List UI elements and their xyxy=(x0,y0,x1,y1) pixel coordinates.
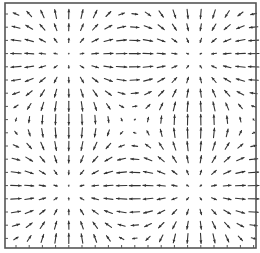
vector-arrow xyxy=(27,11,32,16)
vector-arrow xyxy=(133,237,138,240)
vector-arrow xyxy=(13,92,20,95)
vector-arrow xyxy=(13,13,19,16)
vector-arrow xyxy=(145,12,150,16)
vector-arrow xyxy=(200,128,203,139)
vector-arrow xyxy=(147,131,150,135)
vector-arrow xyxy=(54,10,57,19)
vector-arrow xyxy=(157,52,165,55)
vector-arrow xyxy=(39,171,45,175)
vector-arrow xyxy=(173,234,176,243)
vector-arrow xyxy=(119,145,124,148)
vector-arrow xyxy=(225,11,229,18)
vector-arrow xyxy=(26,223,32,228)
vector-arrow xyxy=(93,90,97,96)
vector-arrow xyxy=(134,131,136,134)
vector-arrow xyxy=(173,10,176,18)
vector-arrow xyxy=(67,170,70,174)
vector-arrow xyxy=(200,141,203,150)
vector-arrow xyxy=(145,92,152,95)
vector-arrow xyxy=(104,197,113,200)
vector-arrow xyxy=(143,65,153,68)
vector-arrow xyxy=(248,198,259,201)
vector-arrow xyxy=(186,128,189,139)
vector-arrow xyxy=(172,52,177,55)
vector-arrow xyxy=(212,39,217,43)
vector-arrow xyxy=(132,145,138,148)
vector-arrow xyxy=(225,90,230,96)
vector-arrow xyxy=(212,184,217,187)
vector-arrow xyxy=(133,105,137,108)
vector-arrow xyxy=(212,222,215,229)
vector-arrow xyxy=(92,39,98,42)
vector-arrow xyxy=(187,66,189,68)
vector-arrow xyxy=(186,24,189,31)
vector-arrow xyxy=(104,171,112,174)
vector-arrow xyxy=(67,127,70,138)
vector-arrow xyxy=(105,157,112,161)
vector-arrow xyxy=(106,12,111,17)
vector-arrow xyxy=(54,114,57,124)
vector-arrow xyxy=(93,222,98,228)
vector-arrow xyxy=(200,221,203,229)
vector-arrow xyxy=(157,39,165,42)
vector-arrow xyxy=(55,234,58,244)
vector-arrow xyxy=(54,77,57,82)
vector-arrow xyxy=(172,39,177,43)
vector-arrow xyxy=(187,52,189,55)
vector-arrow xyxy=(212,156,216,163)
vector-arrow xyxy=(236,52,246,55)
vector-arrow xyxy=(67,233,70,243)
vector-arrow xyxy=(236,211,245,214)
vector-arrow xyxy=(92,66,99,69)
vector-arrow xyxy=(54,128,57,138)
vector-arrow xyxy=(226,129,229,137)
vector-arrow xyxy=(106,143,111,148)
vector-arrow xyxy=(107,104,111,109)
vector-arrow xyxy=(118,224,125,227)
vector-arrow xyxy=(104,66,113,69)
vector-arrow xyxy=(226,235,229,242)
vector-arrow xyxy=(172,65,177,68)
vector-arrow xyxy=(145,224,152,227)
vector-arrow xyxy=(160,235,163,242)
vector-arrow xyxy=(237,223,244,227)
vector-arrow xyxy=(134,119,136,121)
vector-arrow xyxy=(172,184,177,187)
vector-arrow xyxy=(199,114,202,125)
vector-arrow xyxy=(41,129,44,138)
vector-arrow xyxy=(54,102,57,112)
vector-arrow xyxy=(26,157,33,161)
vector-arrow xyxy=(186,234,189,244)
vector-arrow xyxy=(67,101,70,111)
vector-arrow xyxy=(186,209,189,214)
vector-arrow xyxy=(80,66,84,69)
vector-arrow xyxy=(236,39,245,42)
vector-arrow xyxy=(11,52,22,55)
vector-arrow xyxy=(212,24,216,30)
vector-arrow xyxy=(67,89,70,97)
vector-arrow xyxy=(160,103,163,110)
vector-arrow xyxy=(92,52,99,55)
vector-arrow xyxy=(144,211,153,214)
vector-arrow xyxy=(120,105,124,108)
vector-arrow xyxy=(28,130,31,136)
vector-arrow xyxy=(200,52,202,55)
vector-arrow xyxy=(143,198,153,201)
vector-arrow xyxy=(158,210,165,214)
vector-arrow xyxy=(11,210,20,213)
vector-arrow xyxy=(40,90,44,97)
vector-arrow xyxy=(226,116,229,124)
vector-arrow xyxy=(248,184,259,187)
vector-arrow xyxy=(40,156,45,162)
vector-arrow xyxy=(80,156,83,163)
vector-arrow xyxy=(11,197,21,200)
vector-arrow xyxy=(25,66,34,69)
vector-arrow xyxy=(252,132,254,135)
vector-arrow xyxy=(172,171,177,175)
vector-arrow xyxy=(223,198,231,201)
vector-arrow xyxy=(67,77,70,83)
vector-arrow xyxy=(157,184,165,187)
vector-arrow xyxy=(80,142,83,151)
vector-arrow xyxy=(130,211,140,214)
vector-arrow xyxy=(159,223,164,228)
